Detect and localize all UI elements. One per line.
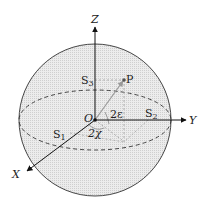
point-p-label: P xyxy=(126,73,134,86)
epsilon-angle-label: 2ε xyxy=(110,108,123,121)
poincare-sphere-diagram: Z Y X O P S3 S2 S1 2ε 2χ xyxy=(0,0,206,205)
z-axis-label: Z xyxy=(90,13,99,26)
y-axis-label: Y xyxy=(189,114,198,127)
origin-label: O xyxy=(84,112,93,125)
x-axis-label: X xyxy=(11,168,21,181)
chi-angle-label: 2χ xyxy=(87,127,103,140)
origin-point xyxy=(93,118,97,122)
